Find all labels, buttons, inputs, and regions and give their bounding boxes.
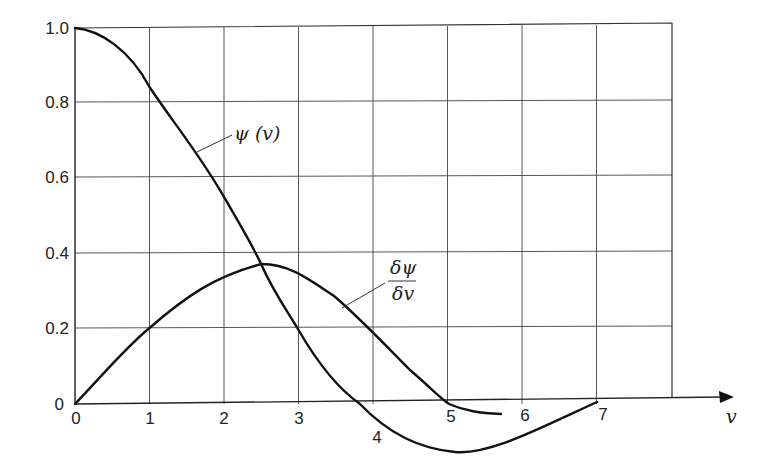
- y-tick: 1.0: [45, 19, 69, 38]
- psi-curve: [75, 28, 597, 452]
- dpsi-numerator: δψ: [390, 256, 417, 278]
- y-tick: 0.8: [45, 93, 69, 112]
- psi-label: ψ (v): [234, 122, 281, 144]
- plot-area: ψ (v) δψ δv 0 0.2 0.4 0.6 0.8 1.0 0 1 2 …: [45, 19, 737, 452]
- chart: ψ (v) δψ δv 0 0.2 0.4 0.6 0.8 1.0 0 1 2 …: [0, 0, 768, 473]
- vertical-gridlines: [150, 25, 597, 404]
- x-axis: [75, 397, 726, 404]
- y-tick: 0.2: [45, 319, 69, 338]
- x-tick: 6: [520, 406, 529, 425]
- x-axis-arrow-icon: [719, 391, 734, 403]
- dpsi-leader-line: [342, 283, 385, 308]
- x-axis-label: v: [726, 405, 737, 427]
- y-tick-labels: 0 0.2 0.4 0.6 0.8 1.0: [45, 19, 69, 414]
- plot-frame: [75, 23, 672, 398]
- y-tick: 0.6: [45, 168, 69, 187]
- x-tick: 7: [598, 405, 607, 424]
- horizontal-gridlines: [75, 100, 672, 328]
- x-tick: 4: [372, 428, 381, 447]
- dpsi-denominator: δv: [392, 282, 414, 304]
- x-tick: 1: [145, 409, 154, 428]
- x-tick-labels: 0 1 2 3 4 5 6 7: [71, 405, 607, 447]
- psi-leader-line: [197, 135, 232, 152]
- y-tick: 0: [55, 395, 64, 414]
- x-tick: 5: [446, 407, 455, 426]
- dpsi-dv-curve: [75, 264, 501, 414]
- y-tick: 0.4: [45, 244, 69, 263]
- x-tick: 3: [294, 409, 303, 428]
- x-tick: 0: [71, 409, 80, 428]
- x-tick: 2: [219, 409, 228, 428]
